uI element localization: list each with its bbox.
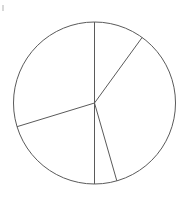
pie-chart-figure	[0, 0, 184, 201]
stray-pixel-artifact	[2, 5, 4, 11]
pie-chart-canvas	[0, 0, 184, 201]
